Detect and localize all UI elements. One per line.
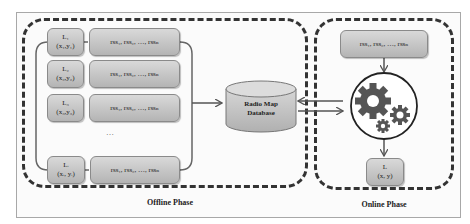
location-box-i: Lᵢ (xᵢ, yᵢ)	[47, 156, 85, 184]
online-rss-values: rss₁, rss₂, …, rssₙ	[360, 40, 409, 49]
rss-box-1: rss₁, rss₂, …, rssₙ	[89, 28, 180, 56]
rss-box-3: rss₁, rss₂, …, rssₙ	[89, 94, 180, 122]
online-rss-box: rss₁, rss₂, …, rssₙ	[340, 30, 428, 58]
location-label: L₂	[62, 65, 69, 74]
location-coord: (xᵢ, yᵢ)	[57, 170, 74, 179]
rss-values: rss₁, rss₂, …, rssₙ	[110, 70, 159, 79]
estimated-location-coord: (x, y)	[377, 172, 392, 181]
rss-box-i: rss₁, rss₂, …, rssₙ	[90, 156, 180, 184]
database-label-line2: Database	[226, 109, 296, 118]
rss-values: rss₁, rss₂, …, rssₙ	[111, 166, 160, 175]
location-label: L₃	[62, 99, 69, 108]
location-box-3: L₃ (x₃,y₃)	[47, 94, 84, 122]
location-coord: (x₁,y₁)	[56, 42, 74, 51]
rss-box-2: rss₁, rss₂, …, rssₙ	[89, 60, 180, 88]
location-label: L₁	[62, 33, 69, 42]
estimated-location-box: L (x, y)	[366, 158, 404, 186]
processor-gears-icon	[351, 73, 417, 139]
location-label: Lᵢ	[63, 161, 68, 170]
rows-ellipsis: …	[106, 128, 114, 137]
location-box-2: L₂ (x₂,y₂)	[47, 60, 84, 88]
rss-values: rss₁, rss₂, …, rssₙ	[110, 38, 159, 47]
location-coord: (x₃,y₃)	[56, 108, 74, 117]
location-coord: (x₂,y₂)	[56, 74, 74, 83]
database-label-line1: Radio Map	[226, 100, 296, 109]
location-box-1: L₁ (x₁,y₁)	[47, 28, 84, 56]
rss-values: rss₁, rss₂, …, rssₙ	[110, 104, 159, 113]
estimated-location-label: L	[383, 163, 387, 172]
database-label: Radio Map Database	[226, 100, 296, 118]
